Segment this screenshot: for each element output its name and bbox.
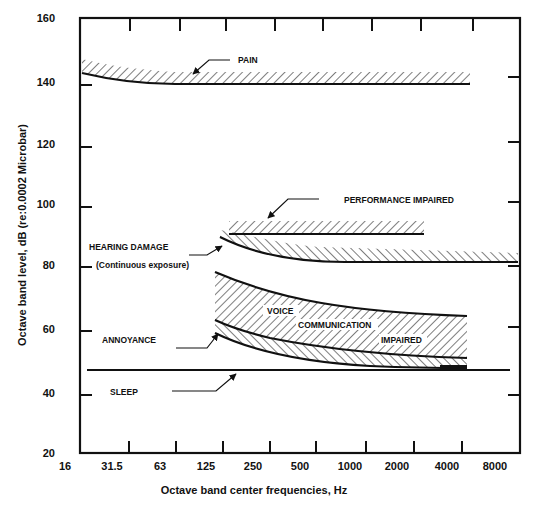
- annoyance-arrow: [176, 334, 218, 348]
- x-tick-labels: 16 31.5 63 125 250 500 1000 2000 4000 80…: [59, 460, 507, 472]
- svg-text:16: 16: [59, 460, 71, 472]
- hearing-damage-label: HEARING DAMAGE: [89, 242, 169, 252]
- left-ticks: [80, 85, 92, 395]
- svg-text:20: 20: [43, 447, 55, 459]
- hearing-damage-sublabel: (Continuous exposure): [96, 260, 189, 270]
- sleep-arrow: [172, 374, 236, 391]
- top-ticks: [130, 18, 473, 31]
- y-tick-labels: 160 140 120 100 80 60 40 20: [37, 12, 55, 459]
- voice-label-2: COMMUNICATION: [298, 320, 372, 330]
- svg-text:160: 160: [37, 12, 55, 24]
- svg-text:125: 125: [197, 460, 215, 472]
- right-ticks: [508, 77, 520, 395]
- hearing-damage-arrow: [189, 246, 222, 255]
- pain-band: [82, 59, 470, 84]
- svg-text:140: 140: [37, 76, 55, 88]
- svg-text:63: 63: [154, 460, 166, 472]
- performance-arrow: [268, 199, 319, 218]
- bottom-ticks: [129, 441, 462, 453]
- svg-text:500: 500: [291, 460, 309, 472]
- svg-text:4000: 4000: [435, 460, 459, 472]
- annoyance-label: ANNOYANCE: [102, 335, 156, 345]
- svg-text:40: 40: [43, 387, 55, 399]
- svg-text:8000: 8000: [483, 460, 507, 472]
- x-axis-title: Octave band center frequencies, Hz: [161, 484, 348, 496]
- voice-label-3: IMPAIRED: [381, 335, 422, 345]
- performance-band: [229, 221, 424, 234]
- voice-label-1: VOICE: [267, 306, 294, 316]
- svg-text:100: 100: [37, 198, 55, 210]
- pain-label: PAIN: [238, 55, 258, 65]
- pain-arrow: [193, 60, 230, 74]
- y-axis-title: Octave band level, dB (re:0.0002 Microba…: [16, 124, 28, 346]
- svg-text:250: 250: [244, 460, 262, 472]
- annoyance-end-block: [440, 365, 467, 369]
- svg-text:2000: 2000: [385, 460, 409, 472]
- svg-text:1000: 1000: [338, 460, 362, 472]
- performance-label: PERFORMANCE IMPAIRED: [344, 195, 454, 205]
- svg-text:31.5: 31.5: [101, 460, 122, 472]
- svg-text:120: 120: [37, 138, 55, 150]
- svg-text:60: 60: [43, 323, 55, 335]
- svg-text:80: 80: [43, 259, 55, 271]
- sleep-label: SLEEP: [110, 387, 138, 397]
- noise-effects-chart: 160 140 120 100 80 60 40 20 16 31.5 63 1…: [0, 0, 537, 509]
